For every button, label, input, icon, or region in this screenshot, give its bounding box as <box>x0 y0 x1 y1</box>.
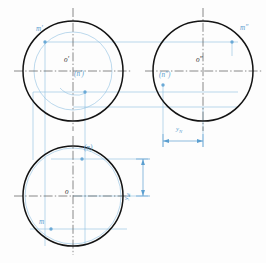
point-m-double-prime-marker <box>230 40 233 43</box>
label-dimension-ym-base: y <box>122 197 129 200</box>
label-dimension-ym: yM <box>123 193 132 200</box>
label-dimension-yn-subscript: N <box>179 129 182 134</box>
label-o-top: o <box>65 189 69 196</box>
construction-lines <box>25 32 238 246</box>
drawing-sheet: m′ o′ (n′) m″ o″ (n″) (n) o m yN yM <box>0 0 266 263</box>
dimension-lines <box>136 134 203 196</box>
label-n-prime: (n′) <box>74 71 84 78</box>
label-dimension-yn: yN <box>176 126 182 135</box>
label-m-double-prime: m″ <box>240 25 248 32</box>
label-m-top: m <box>39 219 44 226</box>
sphere-outlines <box>23 21 253 246</box>
point-n-prime-marker <box>83 90 86 93</box>
label-o-prime: o′ <box>64 57 69 64</box>
label-dimension-ym-subscript: M <box>126 193 131 197</box>
point-n-double-prime-marker <box>161 83 164 86</box>
point-m-top-marker <box>49 227 52 230</box>
point-markers <box>43 40 233 230</box>
label-m-prime: m′ <box>36 26 43 33</box>
label-n-top: (n) <box>84 145 92 152</box>
center-lines <box>14 8 262 255</box>
point-m-prime-marker <box>43 40 46 43</box>
point-n-top-marker <box>80 157 83 160</box>
label-o-double-prime: o″ <box>196 57 203 64</box>
label-n-double-prime: (n″) <box>159 72 170 79</box>
